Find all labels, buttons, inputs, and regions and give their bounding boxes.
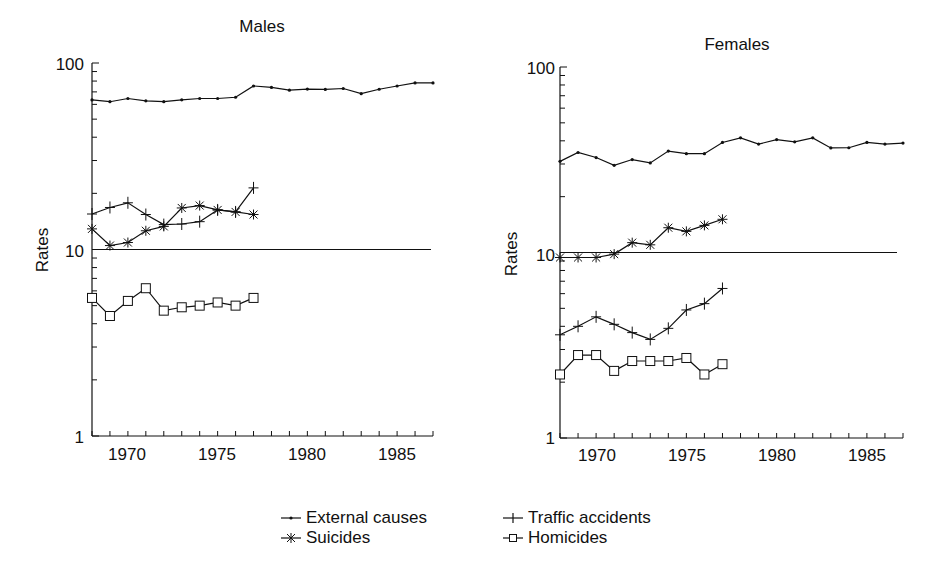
- y-tick-label-1: 1: [546, 429, 555, 448]
- legend-label: Traffic accidents: [528, 508, 651, 528]
- x-tick-label-1975: 1975: [198, 445, 236, 464]
- legend-label: Homicides: [528, 528, 607, 548]
- legend-label: External causes: [306, 508, 427, 528]
- panel-title-males: Males: [239, 17, 284, 36]
- y-tick-label-100: 100: [527, 59, 555, 78]
- legend-item-suicides: Suicides: [280, 528, 370, 548]
- y-tick-label-10: 10: [536, 246, 555, 265]
- females-panel: Females Rates 100 10 1 1970 1975 1980 19…: [502, 35, 905, 465]
- axes-females: [560, 67, 903, 438]
- y-tick-label-10: 10: [65, 242, 84, 261]
- panel-title-females: Females: [704, 35, 769, 54]
- series-males: [87, 81, 435, 320]
- figure: Males Rates 100 10 1 1970 1975 1980 1985…: [0, 0, 937, 575]
- x-tick-label-1980: 1980: [288, 445, 326, 464]
- x-tick-label-1975: 1975: [668, 446, 706, 465]
- x-tick-label-1970: 1970: [108, 445, 146, 464]
- legend: External causes Traffic accidents Suicid…: [280, 508, 680, 552]
- legend-item-external-causes: External causes: [280, 508, 427, 528]
- series-females: [555, 136, 905, 379]
- x-tick-label-1985: 1985: [848, 446, 886, 465]
- axes-males: [92, 63, 433, 436]
- legend-item-homicides: Homicides: [502, 528, 607, 548]
- plus-marker-icon: [502, 511, 524, 525]
- square-marker-icon: [502, 531, 524, 545]
- males-panel: Males Rates 100 10 1 1970 1975 1980 1985: [33, 17, 435, 464]
- asterisk-marker-icon: [280, 531, 302, 545]
- chart-canvas: Males Rates 100 10 1 1970 1975 1980 1985…: [0, 0, 937, 575]
- legend-item-traffic-accidents: Traffic accidents: [502, 508, 651, 528]
- y-axis-label: Rates: [33, 228, 52, 272]
- legend-label: Suicides: [306, 528, 370, 548]
- y-axis-label: Rates: [502, 232, 521, 276]
- dot-marker-icon: [280, 511, 302, 525]
- y-tick-label-1: 1: [75, 428, 84, 447]
- x-tick-label-1970: 1970: [578, 446, 616, 465]
- x-tick-label-1985: 1985: [378, 445, 416, 464]
- x-tick-label-1980: 1980: [758, 446, 796, 465]
- y-tick-label-100: 100: [56, 55, 84, 74]
